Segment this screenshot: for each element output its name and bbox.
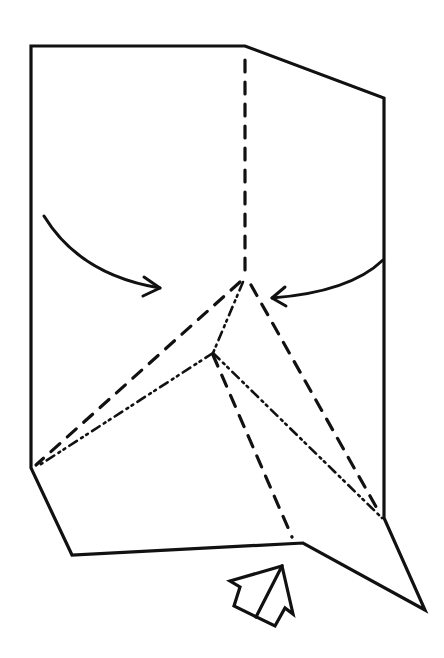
right-fold-arrow-icon	[272, 260, 383, 306]
right-mountain-fold	[213, 353, 382, 518]
left-upper-valley-fold	[36, 282, 240, 465]
right-valley-fold	[251, 285, 379, 512]
left-fold-arrow-icon	[44, 216, 160, 296]
inner-valley-fold	[213, 355, 292, 537]
left-mountain-fold	[38, 353, 213, 466]
push-in-arrow-icon	[230, 566, 293, 626]
origami-fold-diagram	[0, 0, 444, 658]
paper-outline	[31, 46, 425, 610]
apex-to-inner-mountain-fold	[213, 282, 243, 353]
